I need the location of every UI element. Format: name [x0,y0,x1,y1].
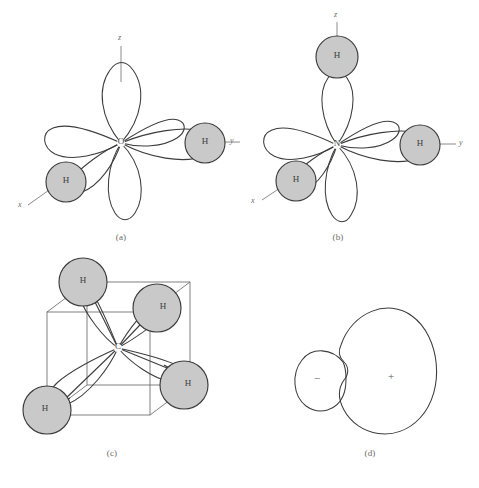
panel-b-svg [240,0,479,250]
bond-arrow-h4 [62,348,118,402]
orbital-lobe-down [325,145,357,222]
panel-a: z y x O H H (a) [0,0,240,250]
hydrogen-atom-x [276,161,316,201]
axis-label-x: x [251,196,255,205]
hydrogen-atom-3 [160,361,208,409]
orbital-sign-positive: + [384,370,398,382]
center-atom-dot [333,141,341,149]
caption-b: (b) [318,232,358,242]
hydrogen-atom-2 [133,284,181,332]
orbital-sign-negative: − [310,372,324,384]
panel-b: z y x N H H H (b) [240,0,479,250]
orbital-lobe-back-left [264,128,337,159]
center-atom-dot [117,139,125,147]
axis-label-y: y [230,136,234,145]
caption-c: (c) [92,448,132,458]
hydrogen-atom-4 [23,386,71,434]
hydrogen-atom-1 [59,258,107,306]
panel-c: C H H H H (c) [0,250,260,488]
caption-d: (d) [350,448,390,458]
orbital-lobe-bond-z [322,72,353,145]
bond-arrow-h3 [118,348,172,370]
hydrogen-atom-y [400,125,440,165]
figure-root: z y x O H H (a) [0,0,479,488]
axis-label-y: y [459,138,463,147]
axis-label-x: x [18,200,22,209]
hydrogen-atom-z [316,36,358,78]
bond-arrow-h1 [92,296,118,348]
axis-label-z: z [118,33,121,42]
caption-a: (a) [101,232,141,242]
hydrogen-atom-y [185,123,225,163]
orbital-lobe-down [108,143,141,220]
axis-label-z: z [334,10,337,19]
orbital-lobe-back-left [45,126,121,157]
panel-d: − + (d) [260,250,479,488]
center-atom-dot [114,344,122,352]
hydrogen-atom-x [46,162,86,202]
